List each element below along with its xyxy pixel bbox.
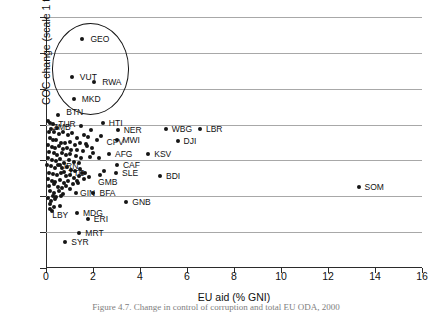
y-tick bbox=[40, 125, 46, 126]
data-point bbox=[81, 149, 85, 153]
data-point-cpv bbox=[99, 134, 103, 138]
y-tick bbox=[40, 160, 46, 161]
data-point-label-afg: AFG bbox=[115, 150, 132, 158]
x-tick-label: 12 bbox=[315, 271, 341, 281]
data-point-label-gmb: GMB bbox=[98, 178, 117, 186]
data-point bbox=[57, 189, 61, 193]
data-point-gnb bbox=[124, 200, 128, 204]
data-point-label-ner: NER bbox=[124, 126, 142, 134]
data-point bbox=[78, 141, 82, 145]
data-point-zmb bbox=[79, 124, 83, 128]
data-point bbox=[86, 135, 90, 139]
data-point-label-mwi: MWI bbox=[123, 136, 140, 144]
data-point-irn bbox=[58, 163, 62, 167]
data-point-label-gin: GIN bbox=[80, 189, 95, 197]
data-point bbox=[68, 152, 72, 156]
data-point bbox=[74, 154, 78, 158]
data-point-label-lby: LBY bbox=[52, 211, 68, 219]
y-tick bbox=[40, 196, 46, 197]
data-point bbox=[75, 148, 79, 152]
figure-container: –3–2–101234 0246810121416 GEOVUTRWAMKDBT… bbox=[0, 0, 432, 319]
data-point-bdi bbox=[158, 174, 162, 178]
data-point-label-mrt: MRT bbox=[85, 229, 103, 237]
x-tick-label: 6 bbox=[174, 271, 200, 281]
data-point bbox=[55, 173, 59, 177]
data-point-mrt bbox=[77, 231, 81, 235]
data-point-gin bbox=[74, 191, 78, 195]
x-tick-label: 8 bbox=[221, 271, 247, 281]
data-point bbox=[95, 138, 99, 142]
data-point bbox=[79, 156, 83, 160]
data-point-label-zmb: ZMB bbox=[53, 123, 71, 131]
data-point bbox=[91, 151, 95, 155]
figure-caption: Figure 4.7. Change in control of corrupt… bbox=[0, 302, 432, 319]
y-axis-title: COC change (scale 1 to 10) bbox=[40, 0, 52, 105]
data-point bbox=[66, 179, 70, 183]
data-point bbox=[66, 133, 70, 137]
data-point bbox=[47, 150, 51, 154]
data-point-label-bfa: BFA bbox=[99, 189, 115, 197]
gridline bbox=[46, 17, 422, 18]
data-point bbox=[53, 197, 57, 201]
data-point bbox=[47, 130, 51, 134]
x-tick-label: 0 bbox=[33, 271, 59, 281]
data-point-ner bbox=[116, 128, 120, 132]
x-tick-label: 2 bbox=[80, 271, 106, 281]
data-point bbox=[102, 169, 106, 173]
data-point bbox=[89, 128, 93, 132]
data-point bbox=[97, 156, 101, 160]
data-point-sle bbox=[114, 171, 118, 175]
x-tick-label: 16 bbox=[409, 271, 432, 281]
data-point-label-ksv: KSV bbox=[154, 150, 171, 158]
data-point bbox=[71, 182, 75, 186]
data-point-som bbox=[357, 185, 361, 189]
data-point bbox=[68, 187, 72, 191]
data-point-label-bdi: BDI bbox=[166, 172, 180, 180]
data-point bbox=[59, 194, 63, 198]
data-point-label-dji: DJI bbox=[184, 137, 197, 145]
data-point-label-gnb: GNB bbox=[132, 198, 150, 206]
data-point bbox=[85, 144, 89, 148]
data-point bbox=[60, 151, 64, 155]
data-point-hti bbox=[101, 121, 105, 125]
data-point bbox=[87, 175, 91, 179]
data-point bbox=[63, 141, 67, 145]
data-point-label-sle: SLE bbox=[122, 169, 138, 177]
data-point-dji bbox=[176, 139, 180, 143]
data-point bbox=[88, 155, 92, 159]
data-point-ksv bbox=[146, 152, 150, 156]
x-tick-label: 14 bbox=[362, 271, 388, 281]
y-tick bbox=[40, 232, 46, 233]
x-tick-label: 4 bbox=[127, 271, 153, 281]
data-point bbox=[90, 146, 94, 150]
data-point-label-wbg: WBG bbox=[172, 125, 192, 133]
data-point-label-syr: SYR bbox=[71, 238, 88, 246]
data-point-label-hti: HTI bbox=[109, 119, 123, 127]
data-point-label-som: SOM bbox=[365, 183, 384, 191]
data-point bbox=[75, 179, 79, 183]
data-point-label-irn: IRN bbox=[64, 162, 79, 170]
data-point-syr bbox=[63, 240, 67, 244]
data-point bbox=[75, 136, 79, 140]
data-point-caf bbox=[115, 163, 119, 167]
data-point bbox=[58, 204, 62, 208]
data-point-btn bbox=[56, 113, 60, 117]
data-point bbox=[68, 140, 72, 144]
data-point-afg bbox=[107, 152, 111, 156]
outlier-highlight-ellipse bbox=[52, 23, 130, 114]
data-point-label-eri: ERI bbox=[94, 215, 108, 223]
x-tick-label: 10 bbox=[268, 271, 294, 281]
data-point-tur bbox=[48, 121, 52, 125]
data-point-mdg bbox=[75, 211, 79, 215]
scatter-plot-area: –3–2–101234 0246810121416 GEOVUTRWAMKDBT… bbox=[46, 17, 422, 268]
data-point-label-lbr: LBR bbox=[206, 125, 223, 133]
data-point-lbr bbox=[198, 127, 202, 131]
data-point-wbg bbox=[164, 127, 168, 131]
gridline bbox=[46, 160, 422, 161]
data-point bbox=[54, 138, 58, 142]
data-point-label-cpv: CPV bbox=[107, 138, 124, 146]
data-point bbox=[57, 132, 61, 136]
data-point bbox=[58, 178, 62, 182]
data-point bbox=[73, 143, 77, 147]
data-point bbox=[47, 184, 51, 188]
